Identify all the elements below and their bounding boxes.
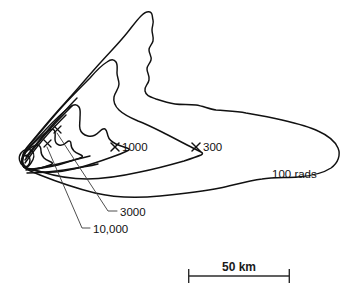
label-100-rads: 100 rads xyxy=(272,168,317,180)
plume-strand-3 xyxy=(25,115,66,163)
contour-map-svg: 300 1000 100 rads 3000 10,000 50 km xyxy=(0,0,351,297)
marker-x-3000 xyxy=(54,126,61,133)
scale-bar-label: 50 km xyxy=(222,260,256,274)
leader-line-3000 xyxy=(57,133,117,211)
marker-x-10000 xyxy=(44,140,51,147)
label-1000: 1000 xyxy=(122,141,148,153)
scale-bar: 50 km xyxy=(188,260,290,283)
label-300: 300 xyxy=(203,141,222,153)
label-10000: 10,000 xyxy=(93,223,128,235)
label-3000: 3000 xyxy=(120,206,146,218)
leader-line-10000 xyxy=(47,147,90,228)
fallout-contour-figure: 300 1000 100 rads 3000 10,000 50 km xyxy=(0,0,351,297)
